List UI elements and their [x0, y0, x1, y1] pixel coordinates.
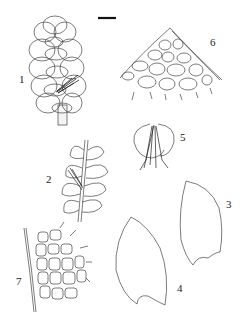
figure-label-6: 6: [210, 37, 216, 48]
figure-5-underleaf: [134, 124, 174, 170]
figure-label-7: 7: [16, 276, 22, 287]
figure-label-1: 1: [19, 74, 25, 85]
figure-label-2: 2: [46, 174, 52, 185]
figure-label-5: 5: [180, 132, 186, 143]
figure-3-leaf: [180, 181, 222, 265]
figure-7-margin-cells: [24, 222, 92, 312]
figure-label-4: 4: [177, 283, 183, 294]
botanical-plate: 1 2 3 4 5 6 7: [0, 0, 242, 325]
plate-drawing: [0, 0, 242, 325]
figure-1-shoot: [29, 16, 86, 125]
figure-4-leaf: [116, 217, 167, 305]
figure-2-shoot: [62, 140, 108, 222]
figure-label-3: 3: [226, 199, 232, 210]
figure-6-apex-cells: [120, 28, 222, 100]
